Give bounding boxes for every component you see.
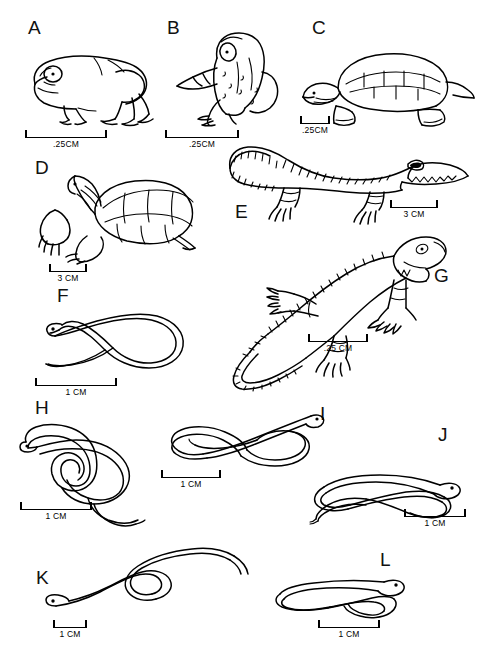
scale-bar-a: .25CM (25, 130, 107, 149)
scale-bar-label-i: 1 CM (161, 479, 221, 489)
panel-letter-j: J (438, 425, 448, 444)
scale-bar-f: 1 CM (35, 378, 117, 397)
scale-bar-l: 1 CM (318, 620, 380, 639)
scale-bar-line-d (49, 264, 87, 272)
panel-d: D (25, 158, 205, 286)
scale-bar-label-e: 3 CM (390, 209, 438, 219)
scale-bar-c: .25CM (300, 116, 330, 135)
scale-bar-line-c (300, 116, 330, 124)
scale-bar-line-i (161, 470, 221, 478)
panel-f: F 1 CM (35, 286, 195, 401)
scale-bar-label-h: 1 CM (20, 511, 92, 521)
scale-bar-line-l (318, 620, 380, 628)
scale-bar-g: .25 CM (308, 334, 368, 353)
tortoise-lateral-icon (25, 174, 205, 262)
scale-bar-d: 3 CM (49, 264, 87, 283)
toad-dorsolateral-icon (165, 28, 295, 126)
scale-bar-label-f: 1 CM (35, 387, 117, 397)
panel-c: C (300, 18, 475, 140)
figure-plate: A .25CM (0, 0, 481, 665)
panel-k: K 1 CM (20, 536, 250, 648)
scale-bar-line-h (20, 502, 92, 510)
panel-e: E (222, 142, 478, 242)
scale-bar-line-f (35, 378, 117, 386)
panel-b: B .2 (165, 18, 295, 138)
panel-letter-l: L (380, 550, 391, 569)
scale-bar-j: 1 CM (404, 509, 466, 528)
scale-bar-label-d: 3 CM (49, 273, 87, 283)
snake-flat-loop-icon (272, 570, 422, 620)
scale-bar-label-c: .25CM (300, 125, 330, 135)
panel-a: A .25CM (20, 18, 160, 138)
scale-bar-label-k: 1 CM (53, 629, 87, 639)
snake-looped-icon (35, 302, 195, 374)
panel-l: L 1 CM (270, 544, 480, 650)
scale-bar-label-g: .25 CM (308, 343, 368, 353)
scale-bar-label-j: 1 CM (404, 518, 466, 528)
scale-bar-h: 1 CM (20, 502, 92, 521)
scale-bar-k: 1 CM (53, 620, 87, 639)
panel-j: J 1 CM (290, 425, 480, 543)
lizard-dorsolateral-icon (198, 232, 468, 392)
scale-bar-line-j (404, 509, 466, 517)
panel-letter-c: C (312, 18, 326, 37)
scale-bar-label-l: 1 CM (318, 629, 380, 639)
scale-bar-i: 1 CM (161, 470, 221, 489)
panel-letter-a: A (28, 18, 41, 37)
frog-lateral-icon (20, 36, 160, 128)
scale-bar-line-e (390, 200, 438, 208)
scale-bar-line-k (53, 620, 87, 628)
scale-bar-line-b (165, 130, 239, 138)
snake-undulating-icon (20, 536, 250, 620)
scale-bar-label-a: .25CM (25, 139, 107, 149)
scale-bar-line-a (25, 130, 107, 138)
scale-bar-e: 3 CM (390, 200, 438, 219)
scale-bar-line-g (308, 334, 368, 342)
panel-g: G (198, 232, 478, 402)
